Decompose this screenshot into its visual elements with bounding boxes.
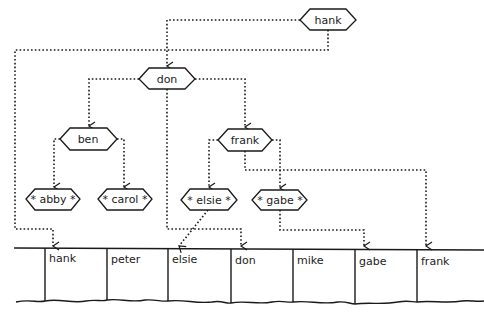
edge-frank-gabe	[272, 140, 280, 188]
edge-don-table	[167, 89, 241, 246]
node-ben: ben	[60, 128, 117, 150]
table-cell-gabe: gabe	[359, 255, 387, 268]
edge-gabe-table	[280, 210, 364, 246]
tree-diagram: hank don ben frank * abby * * carol * * …	[0, 0, 484, 316]
node-frank: frank	[218, 129, 272, 151]
table-torn-edge	[16, 300, 484, 304]
svg-text:* carol *: * carol *	[103, 193, 148, 206]
svg-text:hank: hank	[314, 14, 342, 27]
edge-elsie-table	[179, 210, 208, 246]
edge-don-ben	[89, 79, 139, 126]
table-cell-frank: frank	[421, 255, 450, 268]
node-don: don	[139, 68, 195, 89]
svg-text:* gabe *: * gabe *	[257, 194, 303, 207]
node-hank: hank	[300, 9, 356, 30]
table-cell-elsie: elsie	[172, 253, 198, 266]
node-elsie: * elsie *	[181, 189, 237, 210]
svg-text:* abby *: * abby *	[30, 193, 76, 206]
edge-ben-carol	[117, 139, 124, 187]
svg-text:frank: frank	[231, 134, 260, 147]
svg-text:* elsie *: * elsie *	[187, 194, 231, 207]
hash-table: hank peter elsie don mike gabe frank	[14, 248, 484, 304]
table-cell-don: don	[235, 254, 256, 267]
node-carol: * carol *	[98, 189, 152, 210]
edge-hank-don	[167, 20, 300, 66]
table-cell-mike: mike	[297, 254, 324, 267]
node-abby: * abby *	[26, 189, 80, 210]
edge-frank-elsie	[209, 140, 218, 187]
table-cell-hank: hank	[49, 252, 77, 265]
svg-text:don: don	[157, 73, 178, 86]
edge-don-frank	[195, 79, 245, 127]
table-cell-peter: peter	[111, 253, 141, 266]
node-gabe: * gabe *	[252, 190, 307, 210]
edge-ben-abby	[54, 139, 60, 187]
svg-text:ben: ben	[78, 133, 99, 146]
